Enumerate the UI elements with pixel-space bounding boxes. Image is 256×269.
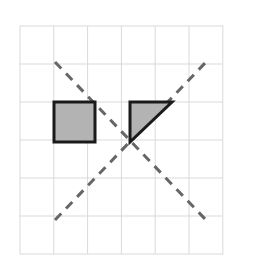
square-grid	[20, 26, 223, 254]
shaded-square	[54, 102, 95, 142]
figure-canvas	[0, 0, 256, 269]
geometry-figure: Grid diagram with shaded square, shaded …	[0, 0, 256, 269]
